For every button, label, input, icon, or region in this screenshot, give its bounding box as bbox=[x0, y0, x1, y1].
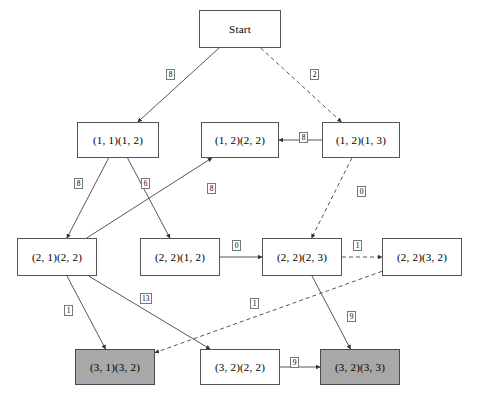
edge-weight-n12_13-to-n22_23: 0 bbox=[357, 186, 366, 197]
graph-edges-layer bbox=[0, 0, 479, 400]
node-label: (1, 1)(1, 2) bbox=[93, 134, 143, 146]
edge-weight-n22_12-to-n22_23: 0 bbox=[232, 240, 241, 251]
node-label: (1, 2)(2, 2) bbox=[215, 134, 265, 146]
edge-n21_22-to-n12_22 bbox=[87, 158, 212, 238]
diagram-canvas: Start(1, 1)(1, 2)(1, 2)(2, 2)(1, 2)(1, 3… bbox=[0, 0, 479, 400]
node-n31_32: (3, 1)(3, 2) bbox=[75, 349, 155, 385]
edge-weight-start-to-n11_12: 8 bbox=[166, 69, 175, 80]
node-label: (1, 2)(1, 3) bbox=[336, 134, 386, 146]
node-n22_12: (2, 2)(1, 2) bbox=[140, 238, 220, 276]
edge-n11_12-to-n21_22 bbox=[67, 158, 109, 238]
node-n32_33: (3, 2)(3, 3) bbox=[320, 349, 400, 385]
edge-weight-start-to-n12_13: 2 bbox=[310, 69, 319, 80]
edge-n21_22-to-n32_22 bbox=[89, 276, 210, 349]
node-n22_23: (2, 2)(2, 3) bbox=[262, 238, 342, 276]
node-n32_22: (3, 2)(2, 2) bbox=[200, 349, 280, 385]
edge-weight-n21_22-to-n32_22: 13 bbox=[140, 293, 152, 304]
edge-start-to-n11_12 bbox=[138, 48, 219, 122]
edge-weight-n22_23-to-n32_33: 9 bbox=[347, 311, 356, 322]
edge-start-to-n12_13 bbox=[261, 48, 342, 122]
edge-paths bbox=[67, 48, 382, 367]
node-n22_32: (2, 2)(3, 2) bbox=[382, 238, 462, 276]
node-label: (2, 2)(1, 2) bbox=[155, 251, 205, 263]
node-label: (2, 2)(2, 3) bbox=[277, 251, 327, 263]
edge-weight-n11_12-to-n22_12: 6 bbox=[141, 178, 150, 189]
node-label: Start bbox=[229, 23, 251, 35]
node-n11_12: (1, 1)(1, 2) bbox=[77, 122, 159, 158]
edge-n22_23-to-n32_33 bbox=[312, 276, 350, 349]
node-label: (2, 2)(3, 2) bbox=[397, 251, 447, 263]
node-start: Start bbox=[199, 10, 281, 48]
edge-weight-n12_13-to-n12_22: 8 bbox=[299, 132, 308, 143]
edge-weight-n21_22-to-n12_22: 8 bbox=[207, 183, 216, 194]
edge-n12_13-to-n22_23 bbox=[312, 158, 352, 238]
edge-weight-n11_12-to-n21_22: 8 bbox=[74, 178, 83, 189]
edge-weight-n22_23-to-n22_32: 1 bbox=[353, 240, 362, 251]
node-label: (3, 2)(3, 3) bbox=[335, 361, 385, 373]
node-label: (2, 1)(2, 2) bbox=[32, 251, 82, 263]
edge-weight-n32_22-to-n32_33: 9 bbox=[290, 357, 299, 368]
node-n12_13: (1, 2)(1, 3) bbox=[322, 122, 400, 158]
node-label: (3, 1)(3, 2) bbox=[90, 361, 140, 373]
edge-weight-n22_32-to-n31_32: 1 bbox=[250, 298, 259, 309]
node-n21_22: (2, 1)(2, 2) bbox=[17, 238, 97, 276]
node-n12_22: (1, 2)(2, 2) bbox=[201, 122, 279, 158]
edge-weight-n21_22-to-n31_32: 1 bbox=[64, 305, 73, 316]
node-label: (3, 2)(2, 2) bbox=[215, 361, 265, 373]
